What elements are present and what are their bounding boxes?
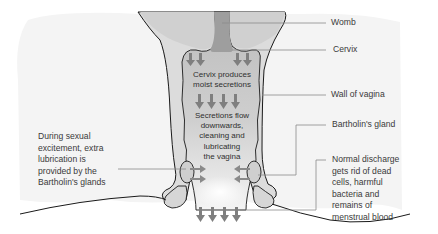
label-sexual-excitement: During sexual excitement, extra lubricat… [38,131,106,189]
label-cervix: Cervix [333,44,357,56]
text-cervix-produces: Cervix produces moist secretions [182,70,262,90]
label-bartholins-gland: Bartholin's gland [332,119,395,131]
label-womb: Womb [331,17,356,29]
label-wall-of-vagina: Wall of vagina [331,89,385,101]
label-normal-discharge: Normal discharge gets rid of dead cells,… [332,154,399,223]
diagram-stage: Womb Cervix Wall of vagina Bartholin's g… [0,0,438,234]
text-secretions-flow: Secretions flow downwards, cleaning and … [182,111,262,162]
